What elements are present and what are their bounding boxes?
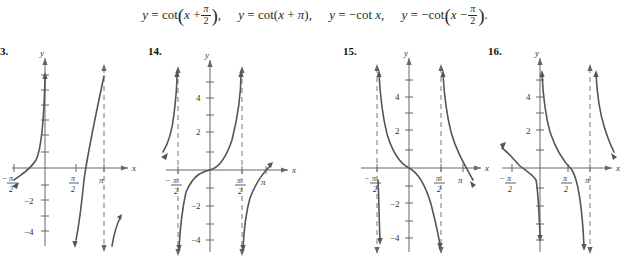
curve-branch-3 — [378, 180, 380, 240]
asymptote1-arrow-bottom — [374, 247, 379, 254]
xtick2-den: 2 — [564, 185, 568, 194]
xtick1-sign: − — [165, 176, 170, 185]
y-tick-label-2: 2 — [526, 126, 531, 136]
x-tick-label-neg-pi-over-2: − π 2 — [165, 176, 182, 196]
eq3-trail: , — [381, 7, 384, 22]
graph-svg-15: y x − π 2 π 2 π 4 2 −2 −4 — [343, 40, 501, 269]
curve-arrow-5 — [593, 70, 598, 77]
x-axis-arrow — [605, 165, 612, 170]
eq1-trail: , — [218, 7, 221, 22]
curve-arrow-1 — [161, 153, 168, 160]
y-axis-arrow — [537, 58, 542, 65]
xtick2-num: π — [436, 174, 441, 183]
curve-branch-2 — [542, 74, 584, 246]
y-axis-label: y — [204, 50, 209, 60]
xtick1-num: π — [173, 176, 178, 185]
curve-arrow-5 — [377, 238, 382, 245]
curve-arrow-3 — [72, 241, 77, 248]
x-axis-arrow — [121, 165, 128, 170]
xtick2-num: π — [71, 174, 76, 183]
asymptote-arrow-top — [587, 64, 592, 71]
xtick1-sign: − — [2, 174, 7, 183]
x-axis-arrow — [281, 167, 288, 172]
xtick1-den: 2 — [508, 185, 512, 194]
x-tick-label-pi-over-2: π 2 — [69, 174, 79, 194]
eq3-lhs: y — [329, 7, 335, 22]
y-tick-label-neg4: −4 — [24, 227, 34, 237]
asymptote2-arrow-top — [438, 64, 443, 71]
xtick1-den: 2 — [174, 187, 178, 196]
curve-arrow-4 — [470, 181, 476, 188]
equation-line: y = cot(x +π2), y = cot(x + π), y = −cot… — [0, 4, 630, 27]
xtick1-num: π — [372, 174, 377, 183]
eq4-arg-op: − — [460, 7, 467, 22]
eq1-equals: = — [151, 7, 158, 22]
eq4-equals: = — [411, 7, 418, 22]
y-tick-label-neg4: −4 — [390, 233, 400, 243]
graph-panel-13: 3. — [0, 40, 158, 269]
x-tick-label-neg-pi-over-2: − π 2 — [2, 174, 17, 194]
curve-arrow-1 — [500, 142, 506, 150]
curve-arrow-6 — [611, 153, 617, 160]
xtick2-num: π — [237, 176, 242, 185]
xtick2-den: 2 — [238, 187, 242, 196]
eq4-function: cot — [429, 7, 445, 22]
y-tick-label-4: 4 — [196, 93, 201, 103]
asymptote-arrow-bottom — [587, 247, 592, 254]
y-axis-label: y — [534, 48, 539, 58]
eq4-frac-den: 2 — [468, 15, 477, 27]
y-tick-label-neg2: −2 — [24, 196, 34, 206]
figure-page: y = cot(x +π2), y = cot(x + π), y = −cot… — [0, 0, 630, 269]
eq2-lhs: y — [238, 7, 244, 22]
curve-arrow-4 — [581, 244, 586, 251]
y-axis-label: y — [39, 48, 44, 58]
x-tick-label-pi: π — [99, 175, 104, 185]
xtick1-sign: − — [499, 174, 504, 183]
eq3-equals: = — [338, 7, 345, 22]
curve-branch-2 — [443, 74, 473, 180]
graph-panel-16: 16. — [488, 40, 630, 269]
graph-svg-14: y x − π 2 π 2 π 4 2 −2 −4 — [148, 40, 306, 269]
x-axis-label: x — [615, 163, 620, 173]
equation-2: y = cot(x + π), — [238, 7, 312, 23]
xtick2-den: 2 — [71, 185, 75, 194]
x-tick-label-pi: π — [458, 175, 463, 185]
equation-1: y = cot(x +π2), — [142, 4, 221, 27]
curve-branch-3 — [112, 218, 120, 246]
eq4-lhs: y — [402, 7, 408, 22]
x-tick-label-pi-over-2: π 2 — [235, 176, 246, 196]
xtick2-num: π — [563, 174, 568, 183]
xtick1-den: 2 — [9, 185, 13, 194]
x-tick-label-pi-over-2: π 2 — [561, 174, 572, 194]
y-axis-arrow — [42, 58, 47, 65]
y-axis-label: y — [403, 48, 408, 58]
eq1-frac-den: 2 — [201, 15, 210, 27]
asymptote2-arrow-bottom — [239, 249, 244, 256]
eq4-frac-num: π — [468, 4, 477, 15]
graph-svg-13: y x − π 2 π 2 π −2 −4 — [0, 40, 158, 269]
asymptote-arrow-bottom — [101, 245, 106, 252]
y-tick-label-neg2: −2 — [191, 201, 201, 211]
eq2-trail: , — [309, 7, 312, 22]
equation-3: y = −cot x, — [329, 7, 384, 23]
asymptote1-arrow-top — [175, 66, 180, 73]
eq1-function: cot — [162, 7, 178, 22]
y-tick-label-4: 4 — [395, 92, 400, 102]
xtick1-den: 2 — [373, 185, 377, 194]
eq2-function: cot — [258, 7, 274, 22]
asymptote1-arrow-top — [374, 64, 379, 71]
eq1-frac-num: π — [201, 4, 210, 15]
asymptote-arrow-top — [101, 64, 106, 71]
curve-branch-2 — [76, 76, 104, 240]
x-axis-arrow — [474, 165, 481, 170]
eq4-trail: . — [484, 7, 487, 22]
x-axis-label: x — [291, 165, 296, 175]
x-axis-label: x — [131, 163, 136, 173]
y-axis-arrow — [406, 58, 411, 65]
equation-4: y = −cot(x −π2). — [402, 4, 488, 27]
eq1-arg-var: x — [184, 7, 190, 22]
xtick1-sign: − — [364, 174, 369, 183]
eq4-arg-var: x — [451, 7, 457, 22]
curve-branch-1 — [163, 74, 177, 152]
y-tick-label-neg2: −2 — [390, 199, 400, 209]
